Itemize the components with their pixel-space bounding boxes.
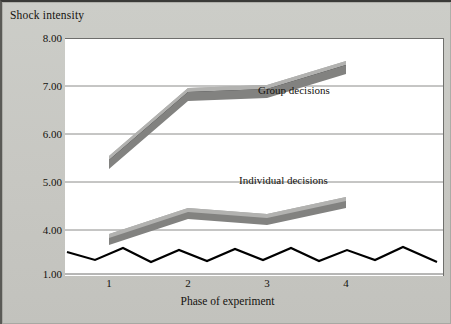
y-tick-label-7: 7.00 [14,80,62,92]
series-label-individual-decisions: Individual decisions [239,174,328,186]
x-axis-title: Phase of experiment [2,295,451,307]
x-tick-label-3: 3 [252,277,282,289]
y-tick-label-8: 8.00 [14,32,62,44]
y-tick-label-6: 6.00 [14,128,62,140]
series-individual-decisions [109,197,346,245]
series-label-group-decisions: Group decisions [258,84,330,96]
y-tick-label-4: 4.00 [14,224,62,236]
series-control-baseline [67,247,437,262]
x-tick-label-4: 4 [331,277,361,289]
plot-area: Group decisions Individual decisions [65,38,443,275]
y-tick-label-1: 1.00 [14,268,62,280]
x-tick-label-1: 1 [94,277,124,289]
y-axis-title: Shock intensity [10,9,84,21]
series-group-decisions [109,61,346,169]
y-tick-label-5: 5.00 [14,176,62,188]
x-tick-label-2: 2 [173,277,203,289]
chart-canvas [65,38,443,275]
chart-figure: Shock intensity 8.00 7.00 6.00 5.00 4.00… [0,0,451,324]
